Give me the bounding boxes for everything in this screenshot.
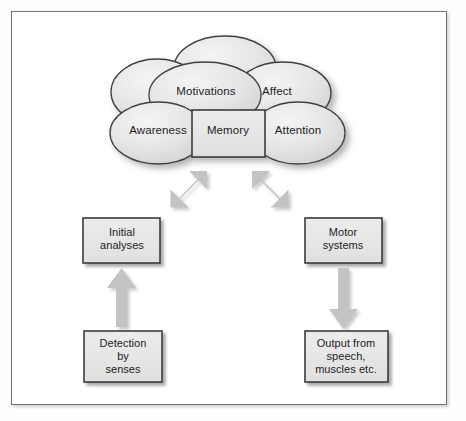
cloud-to-motor-systems-arrow — [252, 171, 289, 208]
detection-to-initial-arrow — [107, 268, 136, 327]
initial-analyses-box — [83, 218, 160, 263]
cloud-to-initial-analyses-arrow — [171, 171, 208, 208]
scanned-page: Memory Motivations Affect Awareness Atte… — [0, 0, 466, 421]
mind-cloud-cluster — [110, 36, 345, 164]
diagram-canvas: Memory Motivations Affect Awareness Atte… — [0, 0, 466, 421]
motor-to-output-arrow — [329, 268, 358, 329]
detection-by-senses-box — [84, 331, 162, 382]
motor-systems-box — [305, 218, 382, 263]
memory-box — [192, 110, 265, 157]
output-speech-muscles-box — [305, 331, 388, 382]
